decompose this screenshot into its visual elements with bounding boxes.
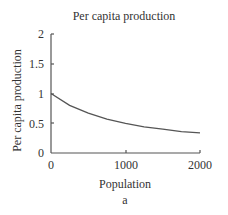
plot-area — [0, 0, 228, 215]
axes — [51, 34, 200, 153]
per-capita-curve — [51, 94, 200, 133]
